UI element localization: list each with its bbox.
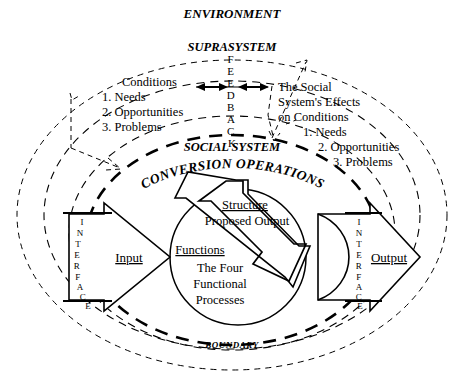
conditions-item-2: 3. Problems <box>102 120 162 134</box>
four-processes-line-1: The Four <box>197 261 244 275</box>
boundary-label: BOUNDARY <box>204 340 259 350</box>
suprasystem-label: SUPRASYSTEM <box>188 40 278 54</box>
structure-label: Structure <box>222 198 268 212</box>
feedback-stack: F E E D B A C K <box>227 53 238 149</box>
proposed-output-label: Proposed Output <box>205 214 290 228</box>
four-processes-line-3: Processes <box>196 293 245 307</box>
output-label: Output <box>371 250 408 265</box>
effects-item-0: 1. Needs <box>303 125 347 139</box>
effects-line-2: System's Effects <box>278 95 360 109</box>
social-system-diagram: CONVERSION OPERATIONS I N T E R F A C E <box>0 0 465 388</box>
input-label: Input <box>115 250 143 265</box>
effects-block: The Social System's Effects on Condition… <box>278 80 399 169</box>
effects-item-1: 2. Opportunities <box>318 140 399 154</box>
social-system-label: SOCIAL SYSTEM <box>184 140 281 154</box>
effects-line-3: on Conditions <box>278 110 349 124</box>
svg-text:I N T: I N T E R F A C E <box>356 217 365 311</box>
conditions-item-0: 1. Needs <box>102 90 146 104</box>
environment-label: ENVIRONMENT <box>183 6 282 21</box>
diagram-canvas: CONVERSION OPERATIONS I N T E R F A C E <box>0 0 465 388</box>
functions-label: Functions <box>175 243 224 257</box>
four-processes-line-2: Functional <box>193 277 247 291</box>
conditions-heading: Conditions <box>122 75 177 89</box>
effects-line-1: The Social <box>278 80 332 94</box>
conditions-block: Conditions 1. Needs 2. Opportunities 3. … <box>102 75 183 134</box>
svg-text:F E E: F E E D B A C K <box>227 53 238 149</box>
conditions-item-1: 2. Opportunities <box>102 105 183 119</box>
effects-item-2: 3. Problems <box>333 155 393 169</box>
